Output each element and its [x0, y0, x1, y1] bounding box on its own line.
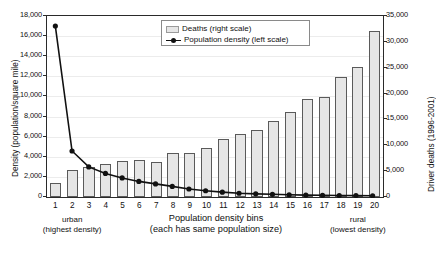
right-axis-tick-label: 30,000: [386, 37, 430, 44]
left-axis-tick-label: 0: [2, 192, 42, 199]
x-axis-tick-label: 17: [320, 201, 329, 210]
legend-item-deaths: Deaths (right scale): [166, 24, 305, 34]
bar: [268, 121, 279, 198]
right-axis-tickmark: [384, 67, 387, 68]
bar: [285, 112, 296, 197]
left-axis-tick-label: 8,000: [2, 112, 42, 119]
left-axis-tick-label: 4,000: [2, 152, 42, 159]
urban-annotation: urban (highest density): [43, 215, 102, 235]
x-axis-ticks: 1234567891011121314151617181920: [46, 201, 384, 213]
right-axis-tick-label: 5,000: [386, 166, 430, 173]
rural-annotation-line1: rural: [330, 215, 386, 225]
bar: [83, 167, 94, 198]
bar: [167, 153, 178, 198]
urban-annotation-line2: (highest density): [43, 225, 102, 235]
x-axis-tick-label: 10: [202, 201, 211, 210]
right-axis-tickmark: [384, 170, 387, 171]
right-axis-tickmark: [384, 15, 387, 16]
right-axis-tick-label: 25,000: [386, 63, 430, 70]
bar: [235, 134, 246, 197]
x-axis-tick-label: 16: [303, 201, 312, 210]
right-axis-tickmark: [384, 118, 387, 119]
x-axis-tick-label: 20: [370, 201, 379, 210]
right-axis-tickmark: [384, 93, 387, 94]
bar: [319, 97, 330, 197]
x-axis-tick-label: 1: [53, 201, 58, 210]
x-axis-title: Population density bins (each has same p…: [150, 213, 282, 235]
x-axis-title-main: Population density bins: [150, 213, 282, 224]
rural-annotation-line2: (lowest density): [330, 225, 386, 235]
bar: [134, 160, 145, 197]
right-axis-tickmark: [384, 41, 387, 42]
legend-item-density: Population density (left scale): [166, 35, 305, 45]
bar: [151, 162, 162, 197]
x-axis-tick-label: 8: [171, 201, 176, 210]
right-axis-tick-label: 20,000: [386, 89, 430, 96]
bar: [352, 67, 363, 197]
left-axis-tick-label: 14,000: [2, 51, 42, 58]
bar: [201, 148, 212, 197]
bar: [117, 161, 128, 197]
right-axis-tick-label: 35,000: [386, 11, 430, 18]
x-axis-tick-label: 19: [353, 201, 362, 210]
legend: Deaths (right scale) Population density …: [161, 20, 310, 46]
legend-label-density: Population density (left scale): [184, 35, 289, 45]
bar: [218, 139, 229, 197]
x-axis-tick-label: 18: [336, 201, 345, 210]
x-axis-tick-label: 9: [188, 201, 193, 210]
bar: [369, 31, 380, 198]
x-axis-tick-label: 15: [286, 201, 295, 210]
x-axis-tick-label: 3: [87, 201, 92, 210]
bar-swatch-icon: [166, 26, 179, 33]
left-axis-tick-label: 6,000: [2, 132, 42, 139]
bar: [100, 164, 111, 197]
left-axis-tick-label: 10,000: [2, 91, 42, 98]
right-axis-tickmark: [384, 196, 387, 197]
left-axis-tick-label: 12,000: [2, 71, 42, 78]
left-axis-tick-label: 18,000: [2, 11, 42, 18]
x-axis-tick-label: 4: [104, 201, 109, 210]
left-axis-tick-label: 16,000: [2, 31, 42, 38]
bar: [184, 153, 195, 197]
bar: [251, 130, 262, 197]
bar: [67, 170, 78, 197]
right-axis-tick-label: 10,000: [386, 140, 430, 147]
x-axis-tick-label: 7: [154, 201, 159, 210]
x-axis-tick-label: 14: [269, 201, 278, 210]
x-axis-title-sub: (each has same population size): [150, 224, 282, 235]
urban-annotation-line1: urban: [43, 215, 102, 225]
rural-annotation: rural (lowest density): [330, 215, 386, 235]
right-axis-tick-label: 0: [386, 192, 430, 199]
line-swatch-icon: [166, 37, 181, 44]
x-axis-tick-label: 13: [252, 201, 261, 210]
right-axis-tickmark: [384, 144, 387, 145]
legend-label-deaths: Deaths (right scale): [182, 24, 251, 34]
x-axis-tick-label: 5: [120, 201, 125, 210]
right-axis-tick-label: 15,000: [386, 114, 430, 121]
x-axis-tick-label: 6: [137, 201, 142, 210]
x-axis-tick-label: 12: [236, 201, 245, 210]
x-axis-tick-label: 11: [219, 201, 228, 210]
bar: [302, 99, 313, 197]
left-axis-tick-label: 2,000: [2, 172, 42, 179]
x-axis-tick-label: 2: [70, 201, 75, 210]
bar: [50, 183, 61, 198]
bar: [335, 77, 346, 198]
